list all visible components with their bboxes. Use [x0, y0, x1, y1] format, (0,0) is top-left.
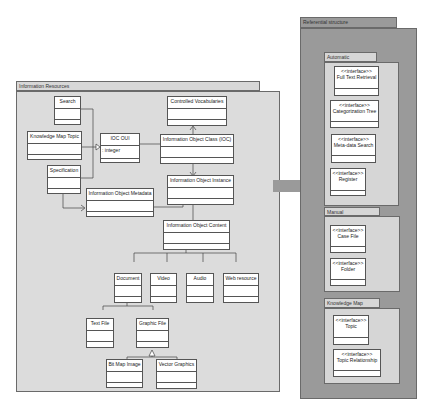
class-name: Text File: [87, 319, 113, 331]
class-name: Information Object Content: [164, 221, 229, 233]
class-name: Bit Map Image: [107, 360, 142, 372]
package-tab-automatic: Automatic: [324, 52, 377, 62]
class-name: Information Object Class (IOC): [161, 135, 233, 147]
class-name: Graphic File: [137, 319, 168, 331]
class-information-object-class[interactable]: Information Object Class (IOC): [160, 134, 234, 164]
interface-name: Topic Relationship: [335, 357, 379, 363]
class-bit-map-image[interactable]: Bit Map Image: [106, 359, 143, 388]
class-attribute: : integer: [101, 146, 139, 159]
package-title-manual: Manual: [327, 209, 343, 215]
class-audio[interactable]: Audio: [186, 273, 214, 303]
class-document[interactable]: Document: [114, 273, 142, 303]
interface-name: Full Text Retrieval: [336, 74, 377, 80]
interface-meta-data-search[interactable]: <<interface>>Meta-data Search: [331, 134, 376, 163]
package-tab-information-resources: Information Resources: [16, 81, 260, 91]
class-video[interactable]: Video: [150, 273, 177, 303]
class-knowledge-map-topic[interactable]: Knowledge Map Topic: [27, 131, 82, 160]
class-graphic-file[interactable]: Graphic File: [136, 318, 169, 348]
interface-name: Categorization Tree: [332, 108, 377, 114]
class-web-resource[interactable]: Web resource: [223, 273, 259, 303]
class-name: Specification: [48, 166, 80, 178]
package-title-automatic: Automatic: [327, 54, 349, 60]
class-search[interactable]: Search: [54, 96, 81, 125]
interface-topic[interactable]: <<interface>>Topic: [333, 315, 369, 345]
class-name: Information Object Metadata: [87, 189, 153, 201]
class-name: IOC OUI: [101, 134, 139, 146]
class-name: Vector Graphics: [157, 360, 196, 372]
class-controlled-vocabularies[interactable]: Controlled Vocabularies: [167, 96, 227, 126]
class-information-object-metadata[interactable]: Information Object Metadata: [86, 188, 154, 217]
interface-name: Meta-data Search: [333, 142, 374, 148]
package-tab-manual: Manual: [324, 207, 380, 216]
interface-name: Topic: [335, 323, 367, 329]
interface-name: Folder: [332, 266, 364, 272]
package-title-information-resources: Information Resources: [19, 83, 69, 89]
class-text-file[interactable]: Text File: [86, 318, 114, 348]
interface-full-text-retrieval[interactable]: <<interface>>Full Text Retrieval: [334, 66, 379, 96]
package-gap-strip: [280, 91, 300, 392]
class-name: Document: [115, 274, 141, 286]
interface-categorization-tree[interactable]: <<interface>>Categorization Tree: [330, 100, 379, 128]
package-tab-knowledge-map: Knowledge Map: [324, 298, 380, 308]
class-ioc-oui[interactable]: IOC OUI : integer: [100, 133, 140, 163]
class-name: Controlled Vocabularies: [168, 97, 226, 109]
class-name: Information Object Instance: [168, 176, 233, 188]
class-information-object-content[interactable]: Information Object Content: [163, 220, 230, 250]
interface-topic-relationship[interactable]: <<interface>>Topic Relationship: [333, 349, 381, 377]
interface-name: Register: [332, 176, 364, 182]
interface-register[interactable]: <<interface>>Register: [330, 168, 366, 196]
class-information-object-instance[interactable]: Information Object Instance: [167, 175, 234, 205]
class-specification[interactable]: Specification: [47, 165, 81, 194]
class-name: Search: [55, 97, 80, 109]
class-name: Video: [151, 274, 176, 286]
package-title-knowledge-map: Knowledge Map: [327, 300, 363, 306]
interface-case-file[interactable]: <<interface>>Case File: [330, 225, 366, 253]
interface-name: Case File: [332, 233, 364, 239]
interface-folder[interactable]: <<interface>>Folder: [330, 258, 366, 286]
package-title-referential-structure: Referential structure: [303, 19, 348, 25]
class-vector-graphics[interactable]: Vector Graphics: [156, 359, 197, 389]
class-name: Web resource: [224, 274, 258, 286]
class-name: Audio: [187, 274, 213, 286]
class-name: Knowledge Map Topic: [28, 132, 81, 144]
package-tab-referential-structure: Referential structure: [300, 17, 397, 28]
package-connector-block: [280, 180, 301, 192]
